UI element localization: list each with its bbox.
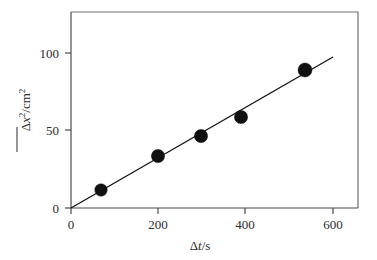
y-axis-title-text: Δx2/cm2 (17, 89, 33, 132)
x-tick-label-400: 400 (235, 217, 255, 232)
figure-container: 0 200 400 600 0 50 100 Δt/s Δx2/cm2 (0, 0, 377, 260)
y-title-unit: /cm (18, 93, 33, 113)
y-tick-label-100: 100 (40, 46, 60, 61)
x-axis-title-text: Δt/s (190, 238, 211, 253)
x-axis-title: Δt/s (190, 238, 211, 253)
data-point (95, 184, 107, 196)
x-tick-label-200: 200 (148, 217, 168, 232)
x-title-delta: Δ (190, 238, 198, 253)
y-tick-label-50: 50 (46, 123, 59, 138)
x-tick-label-0: 0 (68, 217, 75, 232)
data-point (194, 129, 207, 142)
scatter-plot: 0 200 400 600 0 50 100 Δt/s Δx2/cm2 (0, 0, 377, 260)
data-point (151, 149, 164, 162)
data-point (234, 110, 247, 123)
y-title-unit-exponent: 2 (17, 89, 27, 94)
x-tick-label-600: 600 (323, 217, 343, 232)
y-title-delta: Δ (18, 123, 33, 131)
x-title-unit: /s (202, 238, 211, 253)
data-point (298, 63, 312, 77)
y-tick-label-0: 0 (53, 201, 60, 216)
